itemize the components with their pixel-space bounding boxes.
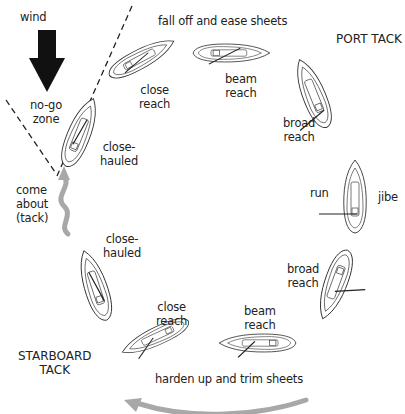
- boat-port-close-reach: [105, 33, 178, 84]
- come-about-label: come about (tack): [16, 183, 48, 225]
- starboard-beam-reach-label: beam reach: [244, 304, 276, 332]
- port-tack-label: PORT TACK: [336, 32, 402, 46]
- starboard-broad-reach-label: broad reach: [287, 262, 319, 290]
- starboard-tack-label: STARBOARD TACK: [18, 349, 92, 377]
- boat-starboard-beam-reach: [219, 334, 296, 357]
- port-close-reach-label: close reach: [139, 83, 170, 111]
- port-close-hauled-label: close- hauled: [100, 140, 138, 168]
- boat-starboard-broad-reach: [312, 246, 376, 329]
- boat-port-beam-reach: [193, 44, 270, 64]
- circulation-arrow-icon: [124, 398, 306, 414]
- come-about-arrow-icon: [58, 166, 70, 234]
- no-go-zone-label: no-go zone: [30, 98, 62, 126]
- fall-off-label: fall off and ease sheets: [158, 14, 287, 28]
- port-beam-reach-label: beam reach: [225, 72, 257, 100]
- wind-label: wind: [20, 10, 46, 24]
- wind-arrow-icon: [29, 30, 65, 92]
- jibe-label: jibe: [378, 190, 398, 204]
- port-broad-reach-label: broad reach: [283, 116, 315, 144]
- run-label: run: [310, 186, 329, 200]
- boat-port-close-hauled: [56, 94, 104, 170]
- starboard-close-reach-label: close reach: [156, 300, 187, 328]
- harden-up-label: harden up and trim sheets: [155, 372, 303, 386]
- starboard-close-hauled-label: close- hauled: [103, 232, 141, 260]
